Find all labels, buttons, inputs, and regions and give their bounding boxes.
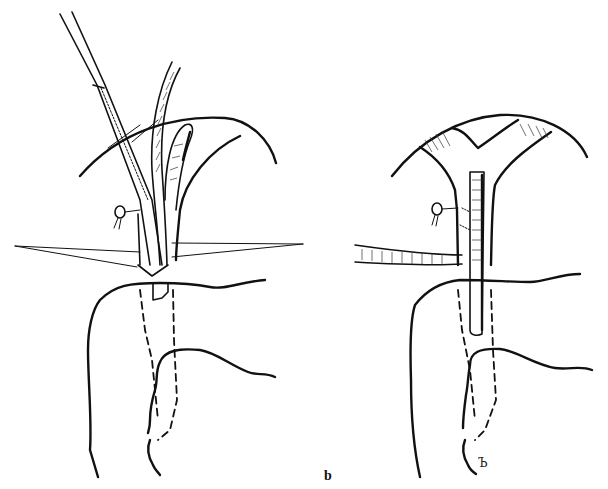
duodenum-lower-right (463, 349, 592, 428)
dilator-tube (152, 62, 180, 265)
hepatic-duct-bifurcation (420, 120, 551, 265)
left-panel (15, 12, 303, 477)
catheter (60, 12, 162, 265)
bile-duct-dashed-left (140, 290, 158, 420)
duodenum-lower-left (148, 349, 275, 433)
side-tube (355, 245, 462, 265)
artist-signature: Ъ (478, 456, 488, 470)
panel-label: b (324, 468, 332, 484)
right-panel (355, 115, 592, 477)
tie-ring-left (114, 206, 140, 229)
inner-tube (165, 124, 192, 210)
surgical-illustration (0, 0, 608, 489)
tie-ring-right (432, 203, 470, 230)
stent (470, 172, 484, 335)
liver-outline-right (392, 115, 587, 176)
